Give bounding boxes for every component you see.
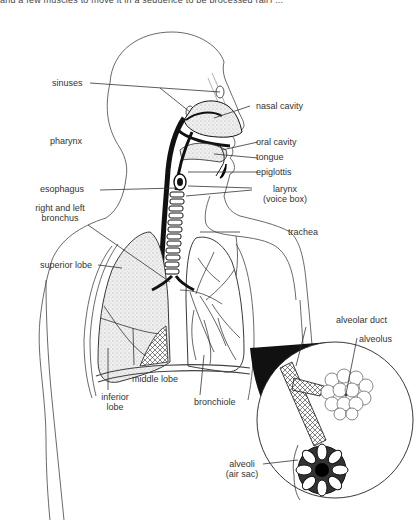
label-bronchus-line2: bronchus [32, 213, 88, 223]
label-alveoli-line1: alveoli [222, 459, 262, 469]
label-trachea: trachea [288, 227, 318, 237]
label-larynx: larynx (voice box) [250, 184, 320, 204]
label-alveoli-line2: (air sac) [222, 469, 262, 479]
label-pharynx: pharynx [50, 136, 82, 146]
label-inferior-line2: lobe [98, 402, 132, 412]
label-larynx-line2: (voice box) [250, 194, 320, 204]
larynx-shape [174, 174, 186, 190]
label-alveoli: alveoli (air sac) [222, 459, 262, 479]
label-alveolus: alveolus [359, 334, 392, 344]
label-epiglottis: epiglottis [256, 167, 292, 177]
label-middle-lobe: middle lobe [132, 374, 178, 384]
label-bronchus: right and left bronchus [32, 203, 88, 223]
label-superior-lobe: superior lobe [40, 260, 92, 270]
label-inferior-line1: inferior [98, 392, 132, 402]
label-nasal-cavity: nasal cavity [256, 101, 303, 111]
label-larynx-line1: larynx [250, 184, 320, 194]
left-lung [180, 237, 244, 372]
label-bronchiole: bronchiole [194, 397, 236, 407]
label-inferior-lobe: inferior lobe [98, 392, 132, 412]
label-bronchus-line1: right and left [32, 203, 88, 213]
label-oral-cavity: oral cavity [256, 137, 297, 147]
label-alveolar-duct: alveolar duct [336, 315, 387, 325]
label-tongue: tongue [256, 152, 284, 162]
label-esophagus: esophagus [40, 184, 84, 194]
label-sinuses: sinuses [52, 78, 83, 88]
